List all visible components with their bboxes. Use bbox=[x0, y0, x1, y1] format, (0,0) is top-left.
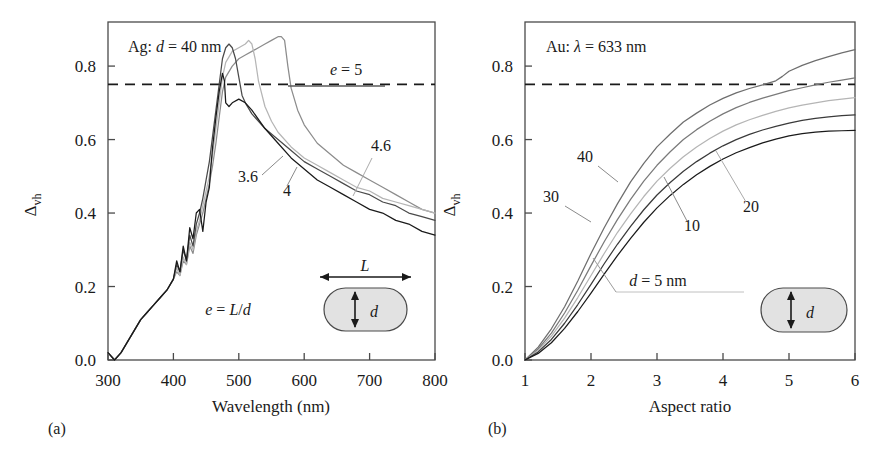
svg-text:0.0: 0.0 bbox=[75, 351, 96, 370]
leader-line-3p6 bbox=[262, 156, 283, 175]
curve-label-40: 40 bbox=[577, 148, 593, 165]
y-axis-label-b: Δvh bbox=[443, 194, 463, 217]
svg-text:1: 1 bbox=[521, 371, 530, 390]
svg-text:4: 4 bbox=[719, 371, 728, 390]
svg-text:6: 6 bbox=[851, 371, 860, 390]
svg-text:3: 3 bbox=[653, 371, 662, 390]
arrow-L-head-right bbox=[402, 273, 411, 281]
nanorod-capsule-a bbox=[324, 288, 407, 331]
annotation-material-b: Au: λ = 633 nm bbox=[546, 38, 647, 55]
nanorod-capsule-b bbox=[761, 288, 847, 332]
panel-label-a: (a) bbox=[48, 420, 66, 438]
panel-b: 0.00.20.40.60.8 123456 Δvh Aspect ratio … bbox=[443, 0, 893, 456]
leader-line-30 bbox=[565, 206, 591, 222]
annotation-material-a: Ag: d = 40 nm bbox=[128, 38, 222, 56]
svg-text:0.4: 0.4 bbox=[75, 204, 97, 223]
x-tick-labels-a: 300400500600700800 bbox=[95, 371, 448, 390]
svg-text:0.8: 0.8 bbox=[492, 57, 513, 76]
svg-text:Δvh: Δvh bbox=[443, 194, 463, 217]
svg-text:600: 600 bbox=[291, 371, 317, 390]
curve-label-3p6: 3.6 bbox=[238, 168, 258, 185]
curve-label-4: 4 bbox=[283, 182, 291, 199]
y-axis-label-a: Δvh bbox=[21, 194, 44, 217]
x-tick-labels-b: 123456 bbox=[521, 371, 860, 390]
curve-label-e5: e = 5 bbox=[330, 61, 362, 78]
inset-label-L: L bbox=[360, 257, 370, 274]
svg-text:0.6: 0.6 bbox=[75, 131, 96, 150]
inset-nanorod-a: L d bbox=[320, 257, 411, 331]
svg-text:700: 700 bbox=[357, 371, 383, 390]
svg-text:Δvh: Δvh bbox=[21, 194, 44, 217]
panel-label-b: (b) bbox=[488, 420, 507, 438]
y-tick-labels-a: 0.00.20.40.60.8 bbox=[75, 57, 97, 370]
svg-text:0.6: 0.6 bbox=[492, 131, 513, 150]
leader-line-4 bbox=[287, 167, 297, 186]
leader-line-20 bbox=[716, 151, 746, 202]
relation-e-ld: e = L/d bbox=[205, 301, 252, 318]
leader-line-40 bbox=[598, 166, 618, 182]
y-tick-labels-b: 0.00.20.40.60.8 bbox=[492, 57, 514, 370]
svg-text:0.8: 0.8 bbox=[75, 57, 96, 76]
x-axis-label-a: Wavelength (nm) bbox=[212, 397, 330, 416]
curve-label-30: 30 bbox=[543, 188, 559, 205]
svg-text:5: 5 bbox=[785, 371, 794, 390]
svg-text:0.0: 0.0 bbox=[492, 351, 513, 370]
figure-root: 0.00.20.40.60.8 300400500600700800 Δvh W… bbox=[0, 0, 893, 456]
arrow-L-head-left bbox=[320, 273, 329, 281]
inset-nanorod-b: d bbox=[761, 288, 847, 332]
svg-text:0.4: 0.4 bbox=[492, 204, 514, 223]
panel-b-svg: 0.00.20.40.60.8 123456 Δvh Aspect ratio … bbox=[443, 0, 893, 456]
svg-text:2: 2 bbox=[587, 371, 596, 390]
svg-text:500: 500 bbox=[226, 371, 252, 390]
inset-label-d-a: d bbox=[370, 303, 379, 320]
svg-text:0.2: 0.2 bbox=[75, 278, 96, 297]
panel-a: 0.00.20.40.60.8 300400500600700800 Δvh W… bbox=[0, 0, 450, 456]
svg-text:300: 300 bbox=[95, 371, 121, 390]
svg-text:0.2: 0.2 bbox=[492, 278, 513, 297]
curve-label-d5nm: d = 5 nm bbox=[629, 272, 687, 289]
inset-label-d-b: d bbox=[806, 304, 815, 321]
curve-label-4p6: 4.6 bbox=[371, 137, 391, 154]
svg-text:400: 400 bbox=[161, 371, 187, 390]
x-axis-label-b: Aspect ratio bbox=[649, 397, 732, 416]
panel-a-svg: 0.00.20.40.60.8 300400500600700800 Δvh W… bbox=[0, 0, 450, 456]
